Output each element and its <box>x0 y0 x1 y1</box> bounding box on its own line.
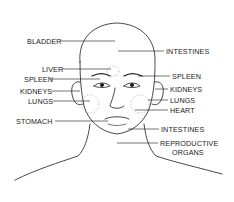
label-intestines-bottom: INTESTINES <box>161 126 204 134</box>
label-organs: ORGANS <box>172 149 204 157</box>
label-kidneys-left: KIDNEYS <box>20 88 52 96</box>
nose <box>110 88 124 108</box>
liver-zone <box>107 66 119 76</box>
label-lungs-right: LUNGS <box>170 97 195 105</box>
mouth <box>105 117 129 119</box>
label-lungs-left: LUNGS <box>28 98 53 106</box>
label-bladder: BLADDER <box>27 38 62 46</box>
right-lung-zone <box>131 95 149 113</box>
label-heart: HEART <box>170 107 195 115</box>
face-map-diagram: BLADDER LIVER SPLEEN KIDNEYS LUNGS STOMA… <box>0 0 234 202</box>
label-reproductive: REPRODUCTIVE <box>160 140 218 148</box>
label-kidneys-right: KIDNEYS <box>170 86 202 94</box>
left-pupil <box>100 83 103 86</box>
label-intestines-top: INTESTINES <box>166 48 209 56</box>
label-liver: LIVER <box>42 66 63 74</box>
left-eyebrow <box>92 74 110 76</box>
left-shoulder <box>15 124 90 180</box>
head-outline <box>80 23 155 134</box>
label-spleen-right: SPLEEN <box>172 73 201 81</box>
label-spleen-left: SPLEEN <box>24 76 53 84</box>
right-pupil <box>130 83 133 86</box>
lower-lip <box>108 124 126 126</box>
label-stomach: STOMACH <box>16 118 53 126</box>
right-eyebrow <box>124 74 142 76</box>
